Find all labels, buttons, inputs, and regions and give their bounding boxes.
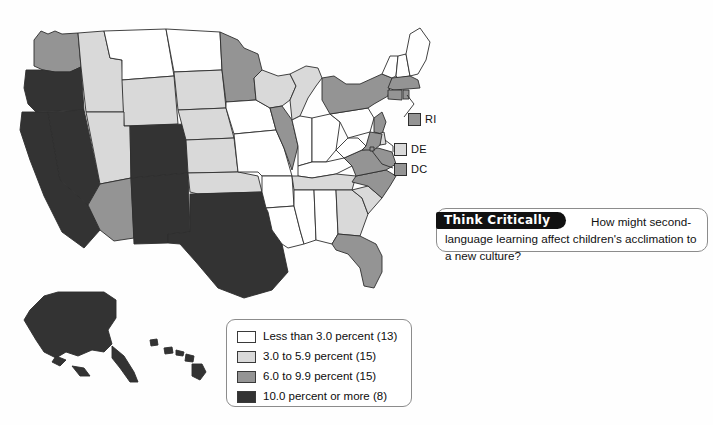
- state-OH[interactable]: [312, 114, 340, 162]
- legend-item-3: 10.0 percent or more (8): [237, 387, 411, 406]
- state-HI-kauai: [150, 339, 158, 346]
- state-AK[interactable]: [24, 292, 116, 358]
- state-NE[interactable]: [178, 108, 234, 140]
- state-AR[interactable]: [262, 176, 294, 208]
- map-legend: Less than 3.0 percent (13) 3.0 to 5.9 pe…: [226, 319, 412, 407]
- legend-item-1: 3.0 to 5.9 percent (15): [237, 347, 411, 366]
- state-WI[interactable]: [254, 70, 296, 108]
- legend-item-0: Less than 3.0 percent (13): [237, 327, 411, 346]
- think-critically-callout: How might second-language learning affec…: [436, 208, 708, 252]
- inset-label-RI-text: RI: [425, 114, 436, 125]
- state-MA[interactable]: [388, 76, 420, 90]
- state-WY[interactable]: [122, 76, 178, 126]
- inset-label-DC: DC: [394, 163, 427, 176]
- state-NY[interactable]: [322, 74, 392, 114]
- state-MI[interactable]: [290, 66, 322, 120]
- inset-label-DE: DE: [394, 143, 427, 156]
- state-OR[interactable]: [24, 67, 84, 112]
- state-AK-panhandle: [112, 346, 138, 382]
- state-AK-aleutian-2: [72, 366, 90, 376]
- legend-item-2: 6.0 to 9.9 percent (15): [237, 367, 411, 386]
- state-FL[interactable]: [332, 234, 382, 288]
- state-HI-oahu: [164, 347, 173, 354]
- state-HI-molokai: [176, 350, 184, 356]
- state-HI-bigisland: [192, 364, 206, 380]
- state-ND[interactable]: [166, 29, 222, 72]
- inset-swatch-RI: [408, 113, 421, 126]
- state-KS[interactable]: [186, 138, 238, 173]
- state-SD[interactable]: [174, 70, 226, 110]
- state-WA[interactable]: [34, 31, 81, 72]
- state-HI-maui: [185, 354, 194, 362]
- legend-label-3: 10.0 percent or more (8): [263, 391, 387, 403]
- legend-swatch-2: [237, 371, 256, 383]
- inset-label-DE-text: DE: [411, 144, 427, 155]
- state-TN[interactable]: [292, 174, 356, 190]
- state-AL[interactable]: [314, 190, 338, 244]
- inset-label-DC-text: DC: [411, 164, 427, 175]
- legend-swatch-0: [237, 331, 256, 343]
- state-CT[interactable]: [388, 90, 402, 100]
- legend-swatch-3: [237, 391, 256, 403]
- state-OK[interactable]: [188, 172, 262, 194]
- figure-page: RI DE DC Less than 3.0 percent (13) 3.0 …: [0, 0, 713, 425]
- state-CO[interactable]: [130, 124, 188, 178]
- inset-swatch-DC: [394, 163, 407, 176]
- state-VT[interactable]: [382, 56, 398, 78]
- legend-swatch-1: [237, 351, 256, 363]
- legend-label-0: Less than 3.0 percent (13): [263, 331, 397, 343]
- state-RI[interactable]: [403, 90, 409, 99]
- inset-label-RI: RI: [408, 113, 436, 126]
- state-DC[interactable]: [370, 147, 374, 151]
- state-ME[interactable]: [406, 28, 430, 76]
- state-NJ[interactable]: [374, 112, 386, 134]
- legend-label-2: 6.0 to 9.9 percent (15): [263, 371, 376, 383]
- think-critically-tag: Think Critically: [436, 212, 566, 229]
- inset-swatch-DE: [394, 143, 407, 156]
- legend-label-1: 3.0 to 5.9 percent (15): [263, 351, 376, 363]
